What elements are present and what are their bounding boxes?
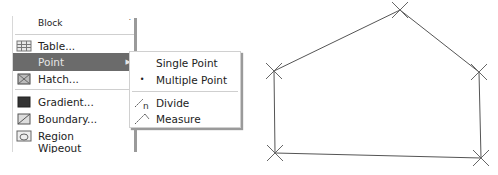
drawing-canvas [0,0,498,175]
polygon-outline [274,10,481,158]
point-marker-top [392,2,408,18]
